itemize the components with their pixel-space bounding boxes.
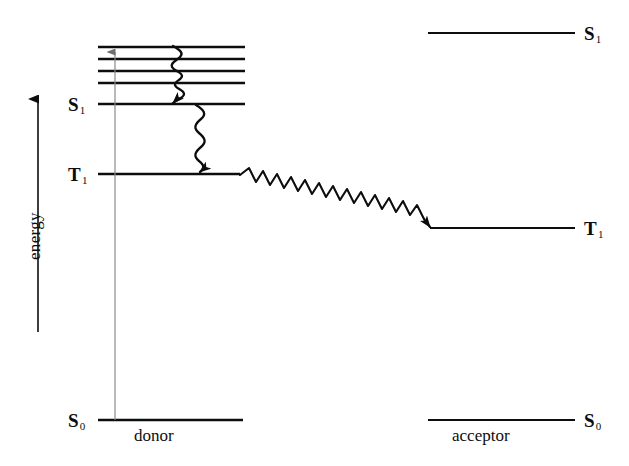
acceptor-t1-letter: T [584,218,597,239]
donor-t1-letter: T [68,164,81,185]
donor-s0-subscript: 0 [80,420,86,432]
donor-s0-letter: S [68,410,79,431]
diagram-canvas [0,0,629,466]
donor-s0-label: S0 [68,411,84,430]
acceptor-s1-letter: S [584,23,595,44]
donor-t1-label: T1 [68,165,87,184]
acceptor-s0-letter: S [584,410,595,431]
acceptor-t1-label: T1 [584,219,603,238]
acceptor-s1-subscript: 1 [596,33,602,45]
acceptor-s0-subscript: 0 [596,420,602,432]
acceptor-s0-label: S0 [584,411,600,430]
donor-s1-label: S1 [68,95,84,114]
acceptor-group-label: acceptor [452,427,510,444]
energy-axis-label: energy [26,212,43,260]
acceptor-t1-subscript: 1 [598,228,604,240]
donor-s1-letter: S [68,94,79,115]
acceptor-s1-label: S1 [584,24,600,43]
donor-group-label: donor [134,427,174,444]
intersystem-crossing-wave [195,105,204,172]
donor-s1-subscript: 1 [80,104,86,116]
jablonski-diagram: energy S1 T1 S0 S1 T1 S0 donor acceptor [0,0,629,466]
donor-t1-subscript: 1 [82,174,88,186]
internal-conversion-wave [172,46,184,103]
triplet-energy-transfer-wave [240,168,430,227]
